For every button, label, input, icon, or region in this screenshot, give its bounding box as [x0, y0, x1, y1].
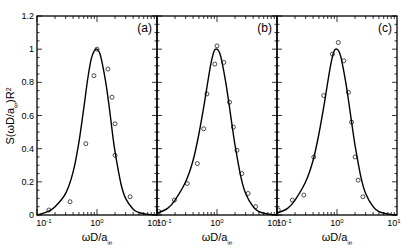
panel-label: (b)	[257, 21, 272, 35]
data-point-marker	[185, 181, 189, 185]
data-point-marker	[92, 74, 96, 78]
data-point-marker	[106, 67, 110, 71]
data-point-marker	[336, 41, 340, 45]
x-tick-label: 10-1	[156, 218, 172, 228]
data-point-marker	[110, 95, 114, 99]
data-point-marker	[290, 198, 294, 202]
data-point-marker	[356, 178, 360, 182]
y-tick-label: 0.8	[21, 77, 34, 87]
data-point-marker	[113, 122, 117, 126]
x-tick-label: 101	[387, 218, 401, 228]
x-tick-label: 100	[210, 218, 224, 228]
y-tick-label: 0.2	[21, 177, 34, 187]
model-curve	[157, 49, 277, 215]
x-axis-title: ωD/a∞	[202, 231, 233, 246]
x-tick-label: 10-1	[36, 218, 52, 228]
panels: 10-1100101ωD/a∞(a)10-1100101ωD/a∞(b)10-1…	[36, 16, 401, 246]
x-tick-label: 100	[90, 218, 104, 228]
spectrum-chart: S(ωD/a∞)R2 00.20.40.60.811.2 10-1100101ω…	[0, 0, 412, 250]
x-tick-label: 10-1	[276, 218, 292, 228]
data-point-marker	[361, 195, 365, 199]
plot-frame	[37, 16, 157, 215]
data-point-marker	[302, 193, 306, 197]
plot-frame	[277, 16, 397, 215]
data-point-marker	[202, 127, 206, 131]
x-axis-title: ωD/a∞	[82, 231, 113, 246]
y-tick-label: 1.2	[21, 11, 34, 21]
y-axis-title: S(ωD/a∞)R2	[4, 87, 19, 144]
data-point-marker	[128, 195, 132, 199]
data-point-marker	[195, 162, 199, 166]
model-curve	[37, 49, 157, 215]
data-point-marker	[68, 200, 72, 204]
panel-label: (a)	[137, 21, 152, 35]
panel-a: 10-1100101ωD/a∞(a)	[36, 16, 161, 246]
panel-label: (c)	[378, 21, 392, 35]
data-point-marker	[246, 191, 250, 195]
data-point-marker	[254, 205, 258, 209]
svg-text:S(ωD/a∞)R2: S(ωD/a∞)R2	[4, 87, 19, 144]
data-point-marker	[215, 44, 219, 48]
y-tick-label: 0	[29, 210, 34, 220]
x-tick-label: 100	[330, 218, 344, 228]
y-tick-label: 1	[29, 44, 34, 54]
y-tick-labels: 00.20.40.60.811.2	[21, 11, 34, 220]
model-curve	[277, 49, 397, 215]
data-point-marker	[84, 142, 88, 146]
panel-b: 10-1100101ωD/a∞(b)	[156, 16, 281, 246]
x-axis-title: ωD/a∞	[322, 231, 353, 246]
y-tick-label: 0.4	[21, 144, 34, 154]
panel-c: 10-1100101ωD/a∞(c)	[276, 16, 401, 246]
data-point-marker	[213, 62, 217, 66]
plot-frame	[157, 16, 277, 215]
y-tick-label: 0.6	[21, 111, 34, 121]
